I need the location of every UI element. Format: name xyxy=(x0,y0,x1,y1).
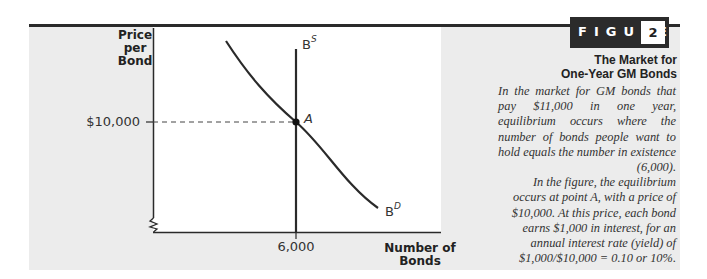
figure-title-line: One-Year GM Bonds xyxy=(561,67,677,81)
equilibrium-point-a xyxy=(292,118,299,125)
x-axis-label: Number of Bonds xyxy=(378,242,462,268)
caption-paragraph-1: In the market for GM bonds that pay $11,… xyxy=(498,84,676,175)
point-a-label: A xyxy=(304,111,313,126)
x-tick-label: 6,000 xyxy=(266,239,326,254)
axis-break-icon xyxy=(150,218,157,232)
figure-number: 2 xyxy=(641,21,665,44)
supply-label: BS xyxy=(302,36,317,52)
supply-label-base: B xyxy=(302,37,311,52)
y-tick-label: $10,000 xyxy=(70,114,140,129)
y-axis-label-line: Bond xyxy=(110,55,160,68)
caption-paragraph-2: In the figure, the equilibrium occurs at… xyxy=(498,175,676,266)
demand-label-base: B xyxy=(385,204,394,219)
figure-title-line: The Market for xyxy=(561,53,677,67)
figure-title: The Market for One-Year GM Bonds xyxy=(561,53,677,81)
demand-label: BD xyxy=(385,203,401,219)
demand-curve xyxy=(226,41,378,208)
figure-caption: In the market for GM bonds that pay $11,… xyxy=(498,84,676,266)
y-axis-label: Price per Bond xyxy=(110,29,160,68)
supply-label-sup: S xyxy=(311,34,317,44)
demand-label-sup: D xyxy=(394,201,401,211)
x-axis-label-line: Bonds xyxy=(378,255,462,268)
